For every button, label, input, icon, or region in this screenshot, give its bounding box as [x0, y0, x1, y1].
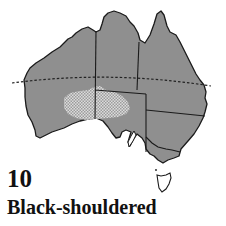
island-dot — [155, 169, 157, 171]
species-name: Black-shouldered — [7, 196, 157, 218]
map-number: 10 — [7, 166, 32, 191]
tasmania — [157, 173, 171, 192]
mainland-australia — [24, 11, 207, 163]
gulf-outline — [128, 131, 136, 147]
australia-range-map — [0, 0, 226, 226]
